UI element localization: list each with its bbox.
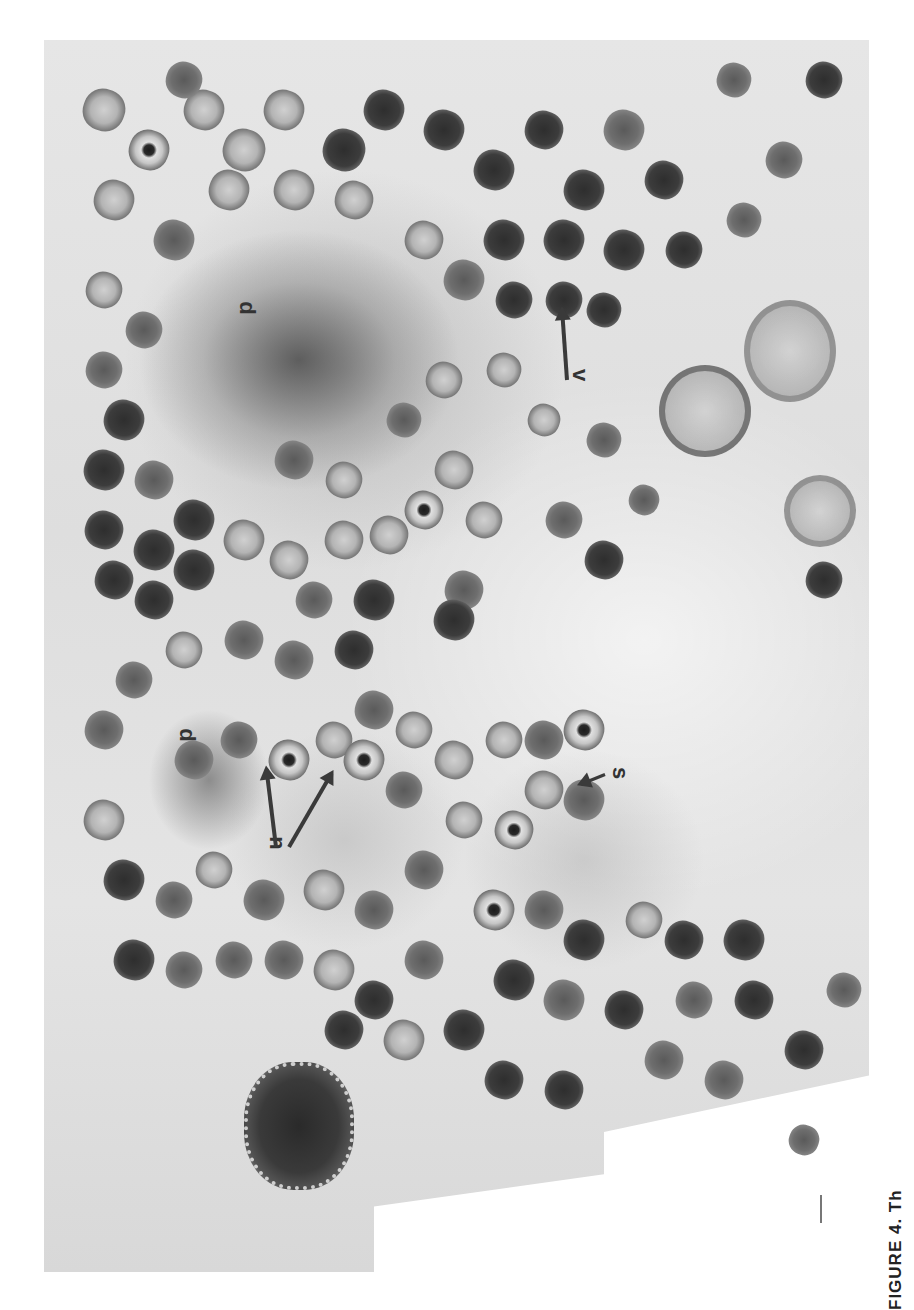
empty-capsid [291, 577, 337, 623]
dense-virion [520, 106, 569, 155]
dense-virion [640, 156, 689, 205]
empty-capsid [520, 766, 569, 815]
cored-particle [123, 124, 174, 175]
empty-capsid [538, 974, 589, 1025]
empty-capsid [148, 214, 199, 265]
dense-virion [418, 104, 469, 155]
empty-capsid [191, 847, 237, 893]
empty-capsid [258, 84, 309, 135]
arrow-v [560, 310, 569, 380]
empty-capsid [582, 418, 626, 462]
empty-capsid [822, 968, 866, 1012]
arrow-n-2 [287, 772, 333, 848]
empty-capsid [421, 357, 467, 403]
empty-capsid [350, 686, 399, 735]
dense-virion [538, 214, 589, 265]
empty-capsid [761, 137, 807, 183]
empty-capsid [320, 516, 369, 565]
dense-virion [598, 224, 649, 275]
empty-capsid [218, 514, 269, 565]
empty-capsid [378, 1014, 429, 1065]
empty-capsid [80, 706, 129, 755]
empty-capsid [382, 398, 426, 442]
dense-virion [98, 394, 149, 445]
dense-virion [80, 506, 129, 555]
empty-capsid [111, 657, 157, 703]
dense-virion [130, 576, 179, 625]
empty-capsid [216, 717, 262, 763]
empty-capsid [220, 616, 269, 665]
label-d-upper: d [234, 301, 260, 314]
vacuole [744, 300, 836, 402]
dense-virion [468, 144, 519, 195]
dense-virion [660, 916, 709, 965]
empty-capsid [270, 436, 319, 485]
empty-capsid [268, 164, 319, 215]
empty-capsid [265, 536, 314, 585]
empty-capsid [121, 307, 167, 353]
vacuole [659, 365, 751, 457]
dense-virion [358, 84, 409, 135]
empty-capsid [722, 198, 766, 242]
dense-virion [491, 277, 537, 323]
dense-virion [540, 1066, 589, 1115]
empty-capsid [308, 944, 359, 995]
empty-capsid [671, 977, 717, 1023]
empty-capsid [161, 627, 207, 673]
empty-capsid [400, 846, 449, 895]
empty-capsid [270, 636, 319, 685]
dense-virion [718, 914, 769, 965]
empty-capsid [321, 457, 367, 503]
dense-virion [330, 626, 379, 675]
figure-caption: FIGURE 4. Th [886, 910, 910, 1310]
empty-capsid [625, 481, 663, 519]
empty-capsid [77, 83, 131, 137]
empty-capsid [330, 176, 379, 225]
cored-particle [558, 704, 609, 755]
dense-virion [348, 574, 399, 625]
dense-virion [558, 914, 609, 965]
dense-virion [438, 1004, 489, 1055]
empty-capsid [400, 216, 449, 265]
dense-virion [661, 227, 707, 273]
empty-capsid [712, 58, 756, 102]
empty-capsid [88, 174, 139, 225]
dense-virion [488, 954, 539, 1005]
dense-virion [98, 854, 149, 905]
empty-capsid [298, 864, 349, 915]
empty-capsid [481, 717, 527, 763]
empty-capsid [211, 937, 257, 983]
empty-capsid [523, 399, 564, 440]
empty-capsid [81, 347, 127, 393]
dense-virion [730, 976, 779, 1025]
dense-virion [580, 536, 629, 585]
dense-virion [558, 164, 609, 215]
dense-virion [168, 494, 219, 545]
empty-capsid [381, 767, 427, 813]
label-v: v [567, 369, 593, 381]
dense-virion [801, 57, 847, 103]
micrograph-figure: d d n s v [44, 40, 869, 1272]
empty-capsid [238, 874, 289, 925]
dense-virion [801, 557, 847, 603]
dense-virion [128, 524, 179, 575]
empty-capsid [598, 104, 649, 155]
empty-capsid [203, 164, 254, 215]
empty-capsid [430, 446, 479, 495]
dense-virion [478, 214, 529, 265]
dense-virion [108, 934, 159, 985]
empty-capsid [640, 1036, 689, 1085]
label-d-lower: d [174, 728, 200, 741]
empty-capsid [260, 936, 309, 985]
empty-capsid [130, 456, 179, 505]
empty-capsid [520, 886, 569, 935]
empty-capsid [461, 497, 507, 543]
empty-capsid [78, 794, 129, 845]
empty-capsid [621, 897, 667, 943]
dense-virion [78, 444, 129, 495]
page-blank-region [604, 1068, 869, 1272]
empty-capsid [438, 254, 489, 305]
dark-inclusion [244, 1062, 354, 1190]
dense-virion [600, 986, 649, 1035]
empty-capsid [400, 936, 449, 985]
